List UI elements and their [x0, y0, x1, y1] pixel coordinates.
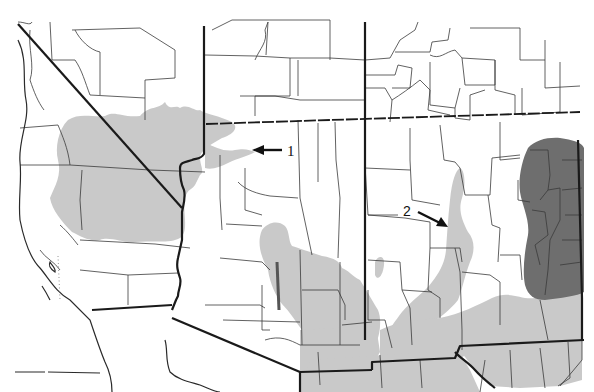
annotation-1-label: 1	[287, 143, 295, 159]
annotation-2-label: 2	[403, 203, 411, 219]
arrow-1-head-icon	[252, 145, 264, 155]
dark-range-shading	[519, 138, 584, 300]
distribution-map: 1 2	[0, 0, 594, 392]
arizona-dark-streak	[277, 262, 279, 310]
annotation-1: 1	[252, 143, 295, 159]
light-range-shading	[50, 102, 582, 392]
annotation-2: 2	[403, 203, 448, 227]
